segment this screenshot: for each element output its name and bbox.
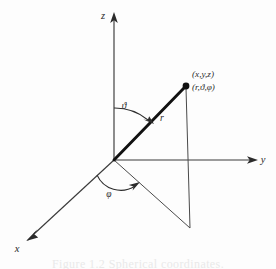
projection-line-group [114,160,190,228]
projection-line [114,160,190,228]
y-axis-label: y [260,154,266,165]
theta-angle-arc [114,108,148,120]
radius-vector-line [114,88,184,160]
x-axis-line [34,160,114,234]
point-spherical-label: (r,ϑ,φ) [192,82,215,92]
z-axis [110,12,118,160]
drop-line [186,88,190,228]
z-axis-label: z [100,10,105,21]
drop-line-group [186,88,190,228]
figure-caption: Figure 1.2 Spherical coordinates. [0,258,276,269]
point-cartesian-label: (x,y,z) [192,69,214,79]
y-axis [114,156,258,164]
phi-arc-arrowhead [129,182,140,191]
spherical-coordinates-diagram: z y x ϑ φ r (x,y,z) (r,ϑ,φ) [0,0,276,269]
phi-angle-label: φ [106,189,111,199]
figure-container: z y x ϑ φ r (x,y,z) (r,ϑ,φ) Figure 1.2 S… [0,0,276,269]
point-marker [183,83,190,90]
x-axis [26,160,114,241]
radius-label: r [160,112,164,123]
theta-angle-arc-group [114,108,154,124]
phi-angle-arc [97,175,135,190]
x-axis-label: x [14,243,20,254]
